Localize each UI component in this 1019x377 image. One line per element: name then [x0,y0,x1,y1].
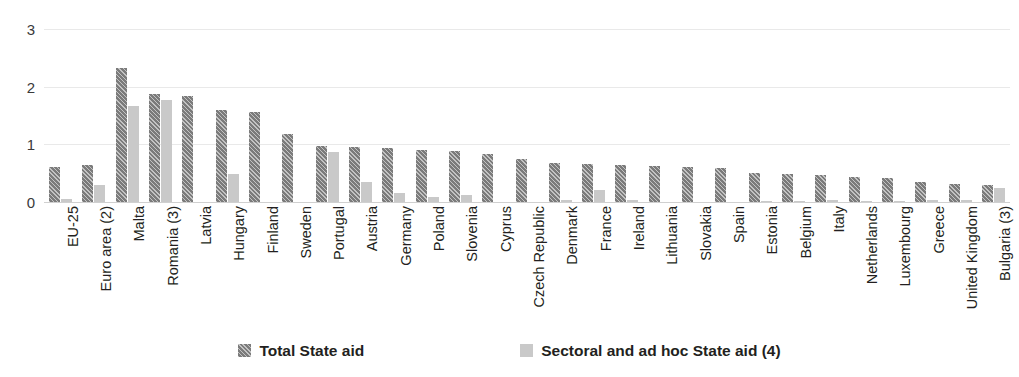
bar-group [77,29,110,202]
bar-group [477,29,510,202]
bar-group [410,29,443,202]
bar-total-aid [516,159,527,202]
legend-item: Sectoral and ad hoc State aid (4) [520,343,780,359]
x-axis-tick: United Kingdom [943,206,976,336]
bar-total-aid [316,146,327,202]
x-axis-tick: Latvia [177,206,210,336]
bar-group [277,29,310,202]
x-axis-label: Bulgaria (3) [998,206,1013,281]
y-tick-label: 0 [27,195,35,210]
bar-sectoral-aid [461,195,472,202]
bar-sectoral-aid [861,201,872,202]
bar-group [810,29,843,202]
bar-total-aid [349,147,360,202]
bar-group [377,29,410,202]
bar-group [311,29,344,202]
bar-total-aid [382,148,393,202]
bar-sectoral-aid [128,106,139,202]
axis-baseline [44,202,1010,203]
bar-sectoral-aid [361,182,372,202]
x-axis-labels: EU-25Euro area (2)MaltaRomania (3)Latvia… [44,206,1010,336]
legend-label: Sectoral and ad hoc State aid (4) [541,343,780,359]
x-axis-tick: Slovakia [677,206,710,336]
bar-sectoral-aid [627,200,638,202]
bar-group [444,29,477,202]
x-axis-tick: Estonia [744,206,777,336]
bar-total-aid [915,182,926,202]
bar-total-aid [615,165,626,202]
bar-sectoral-aid [561,200,572,202]
bar-group [211,29,244,202]
x-axis-tick: Finland [244,206,277,336]
bar-group [943,29,976,202]
bar-sectoral-aid [827,200,838,202]
x-axis-tick: Euro area (2) [77,206,110,336]
sectoral-aid-swatch [520,344,533,357]
bar-total-aid [282,134,293,202]
legend-label: Total State aid [259,343,364,359]
bar-total-aid [649,166,660,202]
x-axis-tick: Belgium [777,206,810,336]
bar-sectoral-aid [61,199,72,202]
bar-group [544,29,577,202]
bar-sectoral-aid [94,185,105,202]
bar-total-aid [849,177,860,202]
bar-total-aid [782,174,793,202]
bar-group [710,29,743,202]
x-axis-tick: Italy [810,206,843,336]
bar-sectoral-aid [394,193,405,202]
bar-total-aid [116,68,127,202]
bar-total-aid [949,184,960,202]
bar-total-aid [416,150,427,202]
total-aid-swatch [238,344,251,357]
x-axis-tick: Germany [377,206,410,336]
y-tick-label: 2 [27,79,35,94]
bar-group [744,29,777,202]
bar-total-aid [82,165,93,202]
bar-group [510,29,543,202]
bar-sectoral-aid [894,201,905,202]
x-axis-tick: Romania (3) [144,206,177,336]
bar-group [144,29,177,202]
bar-total-aid [982,185,993,202]
x-axis-tick: Malta [111,206,144,336]
bar-group [877,29,910,202]
bar-group [177,29,210,202]
bar-total-aid [182,96,193,202]
bar-total-aid [715,168,726,202]
bar-group [610,29,643,202]
state-aid-bar-chart: 0123 EU-25Euro area (2)MaltaRomania (3)L… [0,0,1019,377]
bar-total-aid [216,110,227,202]
bar-sectoral-aid [228,174,239,202]
x-axis-tick: Spain [710,206,743,336]
x-axis-tick: France [577,206,610,336]
bar-group [677,29,710,202]
bar-total-aid [249,112,260,202]
x-axis-tick: Poland [410,206,443,336]
x-axis-tick: Czech Republic [510,206,543,336]
chart-legend: Total State aidSectoral and ad hoc State… [0,343,1019,359]
bar-total-aid [49,167,60,202]
bar-group [844,29,877,202]
bar-group-container [44,29,1010,202]
bar-group [44,29,77,202]
x-axis-tick: Slovenia [444,206,477,336]
bar-sectoral-aid [428,197,439,202]
bar-group [577,29,610,202]
x-axis-tick: Luxembourg [877,206,910,336]
x-axis-tick: Greece [910,206,943,336]
bar-sectoral-aid [761,201,772,202]
legend-item: Total State aid [238,343,364,359]
x-axis-tick: Cyprus [477,206,510,336]
bar-sectoral-aid [161,100,172,202]
x-axis-tick: Denmark [544,206,577,336]
bar-sectoral-aid [594,190,605,202]
bar-group [977,29,1010,202]
x-axis-tick: EU-25 [44,206,77,336]
bar-total-aid [815,175,826,202]
bar-group [111,29,144,202]
bar-total-aid [449,151,460,202]
bar-group [777,29,810,202]
x-axis-tick: Portugal [311,206,344,336]
bar-sectoral-aid [794,201,805,202]
